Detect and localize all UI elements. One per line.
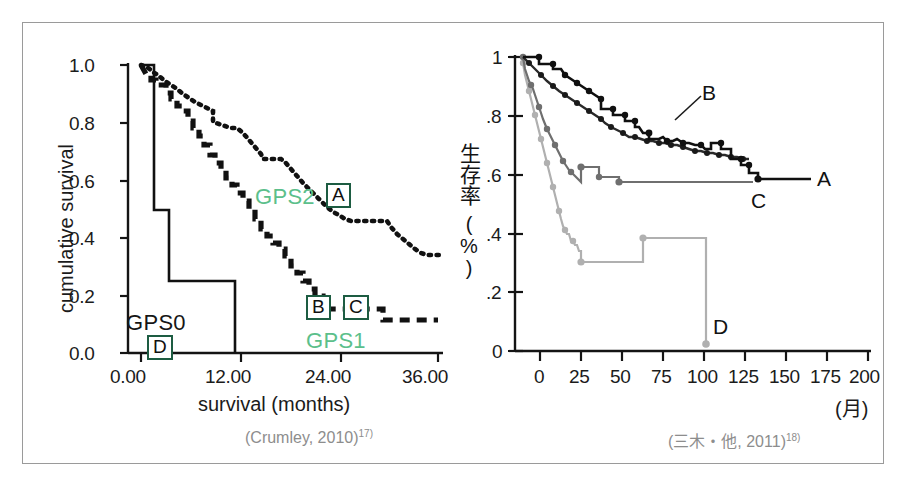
- right-citation-text: (三木・他, 2011): [668, 433, 786, 450]
- left-citation: (Crumley, 2010)17): [245, 428, 373, 447]
- right-ytick-04: .4: [486, 224, 501, 246]
- right-xtick-175: 175: [810, 366, 841, 388]
- right-xtick-150: 150: [769, 366, 800, 388]
- right-x-axis-unit: (月): [835, 393, 868, 422]
- right-x-ticks: [540, 351, 868, 361]
- right-y-axis-title-unit: (%): [459, 213, 479, 279]
- left-label-gps1: GPS1: [306, 328, 366, 354]
- left-label-gps2: GPS2: [255, 184, 315, 210]
- right-xtick-75: 75: [651, 366, 672, 388]
- left-ytick-0-6: 0.6: [69, 171, 95, 193]
- left-tag-d: D: [147, 335, 173, 360]
- right-series-c: [523, 57, 753, 182]
- right-xtick-50: 50: [610, 366, 631, 388]
- left-ytick-0-0: 0.0: [69, 343, 95, 365]
- right-citation: (三木・他, 2011)18): [668, 428, 800, 452]
- left-x-axis-title: survival (months): [198, 393, 350, 416]
- right-ytick-0: 0: [492, 341, 502, 363]
- right-label-a: A: [817, 167, 831, 191]
- right-series-d: [523, 63, 706, 344]
- left-label-gps0: GPS0: [126, 310, 186, 336]
- right-xtick-0: 0: [534, 366, 544, 388]
- figure-root: cumulative survival 1.0 0.8 0.6 0.4 0.2 …: [0, 0, 907, 492]
- figure-frame: cumulative survival 1.0 0.8 0.6 0.4 0.2 …: [22, 22, 884, 464]
- right-chart-panel: 生存率 (%) 1 .8 .6 .4 .2 0 0 25 50 75 100 1…: [453, 23, 885, 465]
- left-chart-panel: cumulative survival 1.0 0.8 0.6 0.4 0.2 …: [23, 23, 463, 465]
- left-ytick-1-0: 1.0: [69, 55, 95, 77]
- left-xtick-36: 36.00: [402, 366, 448, 388]
- left-xtick-24: 24.00: [305, 366, 351, 388]
- left-x-ticks: [141, 353, 438, 362]
- right-ytick-1: 1: [492, 47, 502, 69]
- left-tag-a: A: [326, 183, 351, 208]
- right-series-d-markers: [520, 60, 710, 348]
- right-series-a-markers: [536, 54, 762, 183]
- left-series-gps2: [141, 65, 439, 255]
- right-ytick-08: .8: [486, 106, 501, 128]
- right-xtick-125: 125: [728, 366, 759, 388]
- right-label-d: D: [713, 315, 728, 339]
- right-ytick-06: .6: [486, 165, 501, 187]
- left-ytick-0-2: 0.2: [69, 286, 95, 308]
- right-xtick-25: 25: [569, 366, 590, 388]
- right-chart-plot: [453, 23, 885, 465]
- right-ytick-02: .2: [486, 282, 501, 304]
- right-xtick-100: 100: [687, 366, 718, 388]
- left-xtick-0: 0.00: [110, 366, 146, 388]
- right-label-b-leader: [675, 96, 701, 120]
- left-ytick-0-4: 0.4: [69, 228, 95, 250]
- right-label-b: B: [702, 81, 716, 105]
- left-citation-sup: 17): [359, 428, 373, 439]
- left-tag-b: B: [306, 295, 331, 320]
- right-y-axis-title-jp: 生存率: [459, 143, 480, 206]
- left-tag-c: C: [343, 295, 369, 320]
- right-series-b-markers: [526, 60, 746, 162]
- left-xtick-12: 12.00: [205, 366, 251, 388]
- right-citation-sup: 18): [786, 432, 800, 443]
- right-xtick-200: 200: [849, 366, 880, 388]
- left-ytick-0-8: 0.8: [69, 113, 95, 135]
- right-label-c: C: [751, 189, 766, 213]
- left-citation-text: (Crumley, 2010): [245, 429, 359, 446]
